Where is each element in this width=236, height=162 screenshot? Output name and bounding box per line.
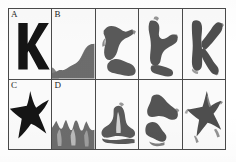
figure-panel-grid: A B (8, 8, 226, 150)
panel-a: A (9, 9, 52, 79)
gray-blob-bottom-icon (52, 9, 94, 79)
partial-letter-k-icon (96, 9, 138, 79)
five-point-star-icon (9, 80, 51, 150)
panel-label-c: C (11, 80, 17, 90)
letter-k-icon (9, 9, 51, 79)
panel-r1c5 (183, 9, 225, 79)
panel-r2c4 (139, 80, 182, 150)
emerging-letter-k-icon (139, 9, 181, 79)
partial-star-icon (96, 80, 138, 150)
gray-jagged-ridge-icon (52, 80, 94, 150)
panel-label-b: B (54, 9, 60, 19)
panel-r2c3 (96, 80, 139, 150)
panel-c: C (9, 80, 52, 150)
panel-label-d: D (54, 80, 61, 90)
panel-r2c5 (183, 80, 225, 150)
figure-row-bottom: C D (9, 80, 225, 150)
panel-d: D (52, 80, 95, 150)
panel-r1c3 (96, 9, 139, 79)
panel-r1c4 (139, 9, 182, 79)
emerging-star-icon (139, 80, 181, 150)
recovered-star-icon (183, 80, 225, 150)
panel-b: B (52, 9, 95, 79)
panel-label-a: A (11, 9, 18, 19)
figure-row-top: A B (9, 9, 225, 80)
recovered-letter-k-icon (183, 9, 225, 79)
